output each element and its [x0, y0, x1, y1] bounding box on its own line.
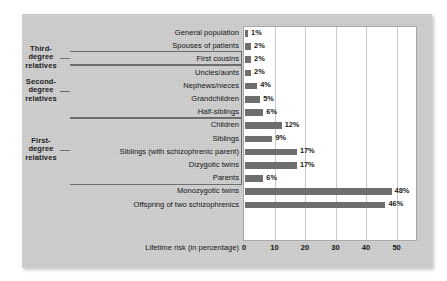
bar-row[interactable] [244, 27, 416, 40]
bar-row[interactable] [244, 185, 416, 198]
bar[interactable] [245, 162, 297, 169]
bar-row[interactable] [244, 40, 416, 53]
category-label: Grandchildren [43, 92, 243, 105]
bar[interactable] [245, 96, 260, 103]
bar-value-label: 2% [254, 40, 265, 52]
x-axis-title: Lifetime risk (in percentage) [43, 241, 243, 254]
category-label: Siblings (with schizophrenic parent) [43, 145, 243, 158]
bar[interactable] [245, 149, 297, 156]
bar-row[interactable] [244, 119, 416, 132]
bar-value-label: 2% [254, 53, 265, 65]
bar-value-label: 12% [285, 119, 300, 131]
category-label: Spouses of patients [43, 39, 243, 52]
bar-value-label: 4% [260, 79, 271, 91]
bar-value-label: 6% [266, 106, 277, 118]
x-tick-10: 10 [270, 241, 278, 254]
bar-value-label: 6% [266, 172, 277, 184]
bar[interactable] [245, 30, 248, 37]
bar[interactable] [245, 109, 263, 116]
x-tick-30: 30 [331, 241, 339, 254]
bar-value-label: 5% [263, 93, 274, 105]
bar[interactable] [245, 122, 282, 129]
category-label: General population [43, 26, 243, 39]
category-label: Siblings [43, 132, 243, 145]
bar[interactable] [245, 188, 392, 195]
bar-value-label: 17% [300, 145, 315, 157]
bar[interactable] [245, 43, 251, 50]
bar[interactable] [245, 175, 263, 182]
bar[interactable] [245, 202, 385, 209]
bar-value-label: 17% [300, 159, 315, 171]
category-label: Dizygotic twins [43, 158, 243, 171]
bar-row[interactable] [244, 67, 416, 80]
category-label: Parents [43, 171, 243, 184]
bar-value-label: 2% [254, 66, 265, 78]
bar-row[interactable] [244, 133, 416, 146]
category-label: Half-siblings [43, 105, 243, 118]
category-label: Nephews/nieces [43, 79, 243, 92]
bar-value-label: 9% [275, 132, 286, 144]
bar[interactable] [245, 70, 251, 77]
bar-value-label: 48% [395, 185, 410, 197]
category-label: Children [43, 118, 243, 131]
bar[interactable] [245, 83, 257, 90]
figure-root: Third- degree relatives Second- degree r… [0, 0, 447, 281]
bar-row[interactable] [244, 146, 416, 159]
bar-value-label: 46% [388, 198, 403, 210]
bar-row[interactable] [244, 159, 416, 172]
category-label: First cousins [43, 52, 243, 65]
category-label: Uncles/aunts [43, 66, 243, 79]
bar[interactable] [245, 136, 272, 143]
x-tick-20: 20 [301, 241, 309, 254]
x-axis: 01020304050 [243, 241, 417, 255]
bar-value-label: 1% [251, 27, 262, 39]
category-label: Monozygotic twins [43, 184, 243, 197]
bar-row[interactable] [244, 53, 416, 66]
bar[interactable] [245, 56, 251, 63]
category-label: Offspring of two schizophrenics [43, 198, 243, 211]
x-tick-50: 50 [392, 241, 400, 254]
x-tick-40: 40 [362, 241, 370, 254]
